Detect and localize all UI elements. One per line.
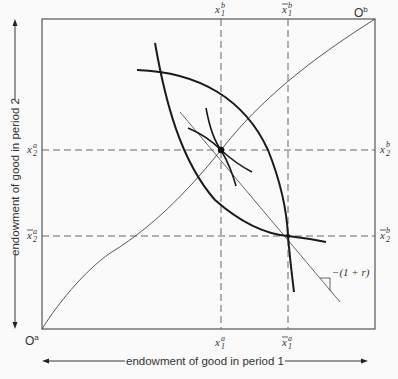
arrow-right-icon bbox=[361, 359, 368, 364]
left-label-x2a-bar: x a 2 bbox=[26, 227, 37, 244]
svg-text:1: 1 bbox=[221, 9, 225, 18]
svg-text:b: b bbox=[386, 226, 390, 235]
indifference-curve-a-endowment bbox=[155, 43, 326, 242]
edgeworth-box-diagram: Ob Oa x b 1 x b 1 x a 1 x a 1 x a 2 x a … bbox=[0, 0, 398, 379]
arrow-up-icon bbox=[13, 19, 18, 26]
left-label-x2a: x a 2 bbox=[26, 141, 37, 158]
svg-text:2: 2 bbox=[33, 235, 37, 244]
svg-text:x: x bbox=[214, 336, 220, 348]
svg-text:x: x bbox=[214, 3, 220, 15]
right-label-x2b-bar: x b 2 bbox=[379, 226, 390, 244]
svg-text:x: x bbox=[281, 336, 287, 348]
svg-text:1: 1 bbox=[221, 342, 225, 351]
bottom-label-x1a-bar: x a 1 bbox=[281, 334, 292, 351]
svg-text:1: 1 bbox=[288, 9, 292, 18]
svg-text:1: 1 bbox=[288, 342, 292, 351]
bottom-label-x1a: x a 1 bbox=[214, 334, 225, 351]
top-label-x1b: x b 1 bbox=[214, 1, 225, 18]
svg-text:b: b bbox=[386, 140, 390, 149]
equilibrium-point bbox=[218, 147, 224, 153]
top-label-x1b-bar: x b 1 bbox=[281, 1, 292, 18]
endowment-point bbox=[286, 234, 290, 238]
svg-text:x: x bbox=[379, 143, 385, 155]
svg-text:2: 2 bbox=[33, 149, 37, 158]
svg-text:2: 2 bbox=[386, 149, 390, 158]
origin-b-label: Ob bbox=[354, 5, 368, 20]
arrow-left-icon bbox=[42, 359, 49, 364]
svg-text:x: x bbox=[379, 229, 385, 241]
svg-text:x: x bbox=[281, 3, 287, 15]
slope-label: −(1 + r) bbox=[332, 266, 370, 279]
svg-text:x: x bbox=[26, 143, 32, 155]
contract-curve bbox=[42, 19, 375, 329]
origin-a-label: Oa bbox=[25, 333, 39, 348]
arrow-down-icon bbox=[13, 322, 18, 329]
y-axis-label: endowment of good in period 2 bbox=[9, 98, 21, 256]
svg-text:x: x bbox=[26, 229, 32, 241]
svg-text:2: 2 bbox=[386, 235, 390, 244]
budget-line bbox=[180, 112, 340, 302]
edgeworth-box-frame bbox=[42, 19, 375, 329]
right-label-x2b: x b 2 bbox=[379, 140, 390, 158]
indifference-curve-b-endowment bbox=[137, 70, 294, 292]
x-axis-label: endowment of good in period 1 bbox=[126, 355, 284, 367]
